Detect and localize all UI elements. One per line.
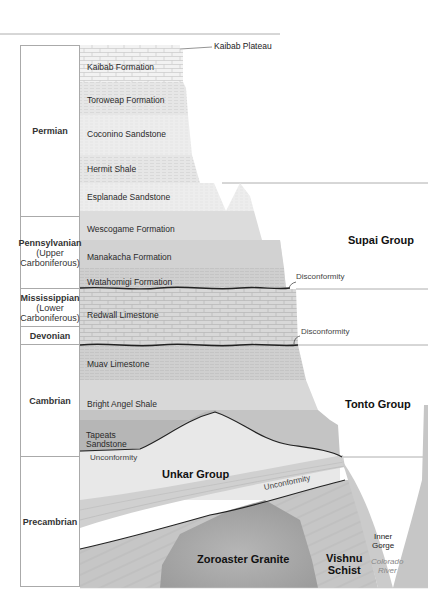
formation-label: Manakacha Formation: [87, 252, 172, 262]
supai-group-label: Supai Group: [348, 234, 414, 246]
colorado-river-label: Colorado River: [371, 557, 403, 575]
period-devonian: Devonian: [20, 327, 80, 345]
formation-label: Redwall Limestone: [87, 310, 159, 320]
formation-label: Kaibab Formation: [87, 62, 154, 72]
unkar-group-label: Unkar Group: [162, 468, 229, 480]
kaibab-plateau-label: Kaibab Plateau: [214, 41, 272, 51]
period-label: (Upper: [36, 248, 64, 258]
period-label: Mississippian: [20, 293, 79, 303]
period-label: Carboniferous): [20, 258, 80, 268]
vishnu-schist-label: Vishnu Schist: [326, 552, 362, 576]
disconformity-upper-label: Disconformity: [296, 272, 344, 281]
period-label: Pennsylvanian: [18, 238, 81, 248]
period-cambrian: Cambrian: [20, 345, 80, 457]
period-label: Precambrian: [23, 517, 78, 527]
disconformity-lower-label: Disconformity: [301, 327, 349, 336]
formation-label: Hermit Shale: [87, 164, 136, 174]
period-pennsylvanian: Pennsylvanian(UpperCarboniferous): [20, 217, 80, 289]
formation-label: Watahomigi Formation: [87, 277, 172, 287]
period-permian: Permian: [20, 45, 80, 217]
period-label: Cambrian: [29, 396, 71, 406]
inner-gorge-label: Inner Gorge: [372, 532, 394, 550]
formation-label: Esplanade Sandstone: [87, 192, 170, 202]
formation-label: Muav Limestone: [87, 359, 149, 369]
period-label: (Lower: [36, 303, 64, 313]
period-precambrian: Precambrian: [20, 457, 80, 587]
formation-label: Wescogame Formation: [87, 224, 175, 234]
tapeats-sandstone-label: Tapeats Sandstone: [86, 431, 127, 449]
grand-canyon-stratigraphy-diagram: PermianPennsylvanian(UpperCarboniferous)…: [0, 0, 448, 602]
formation-label: Bright Angel Shale: [87, 399, 157, 409]
unconformity-left-label: Unconformity: [90, 453, 137, 462]
period-label: Devonian: [30, 331, 71, 341]
formation-label: Toroweap Formation: [87, 95, 164, 105]
period-label: Carboniferous): [20, 313, 80, 323]
tonto-group-label: Tonto Group: [345, 398, 411, 410]
period-label: Permian: [32, 126, 68, 136]
period-mississippian: Mississippian(LowerCarboniferous): [20, 289, 80, 327]
zoroaster-granite-label: Zoroaster Granite: [197, 553, 289, 565]
formation-label: Coconino Sandstone: [87, 129, 166, 139]
